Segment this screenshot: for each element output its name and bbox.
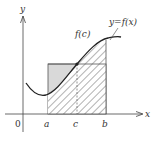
tick-label-c: c [73,119,78,129]
point-label-fc: f(c) [74,29,91,39]
mean-value-theorem-diagram: y x 0 a c b f(c) y=f(x) [0,0,160,143]
tick-label-b: b [102,119,108,129]
y-axis-label: y [19,4,26,14]
tick-label-a: a [44,119,49,129]
point-c-fc [75,62,78,65]
curve-label: y=f(x) [108,17,138,27]
x-axis-label: x [145,109,150,119]
curve-label-leader [110,28,118,40]
origin-label: 0 [15,119,21,129]
